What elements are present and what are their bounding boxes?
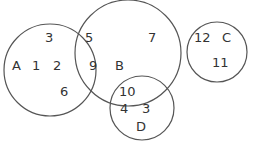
element-3-d: 3	[142, 101, 150, 116]
element-2: 2	[53, 58, 61, 73]
element-6: 6	[60, 84, 68, 99]
set-b-label: B	[115, 58, 124, 73]
venn-diagram: A B C D 3 1 2 6 5 9 7 10 4 3 12 11	[0, 0, 253, 142]
set-c-label: C	[222, 30, 231, 45]
element-5: 5	[85, 30, 93, 45]
element-3-a: 3	[45, 30, 53, 45]
element-1: 1	[32, 58, 40, 73]
set-d-label: D	[136, 119, 146, 134]
element-4: 4	[120, 101, 128, 116]
set-a-label: A	[12, 58, 21, 73]
element-7: 7	[148, 30, 156, 45]
element-10: 10	[119, 84, 136, 99]
element-9: 9	[89, 58, 97, 73]
element-11: 11	[212, 55, 229, 70]
element-12: 12	[194, 30, 211, 45]
